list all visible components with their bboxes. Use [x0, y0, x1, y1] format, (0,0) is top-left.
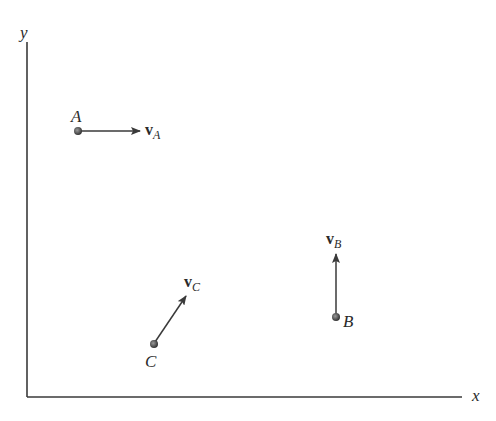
particle-label-a: A	[70, 107, 82, 126]
particle-label-b: B	[343, 312, 354, 331]
y-axis-label: y	[18, 23, 28, 42]
particle-c: C vC	[145, 273, 201, 371]
velocity-diagram: y x A vA B vB C vC	[0, 0, 496, 421]
velocity-label-c: vC	[184, 273, 201, 294]
velocity-label-a: vA	[145, 121, 161, 142]
velocity-label-b: vB	[326, 230, 342, 251]
particle-dot-c	[150, 340, 158, 348]
axes: y x	[18, 23, 480, 405]
particle-label-c: C	[145, 352, 157, 371]
particle-a: A vA	[70, 107, 161, 142]
particle-dot-a	[74, 127, 82, 135]
particle-dot-b	[332, 313, 340, 321]
x-axis-label: x	[471, 386, 480, 405]
velocity-arrow-c	[155, 296, 186, 342]
particle-b: B vB	[326, 230, 354, 331]
